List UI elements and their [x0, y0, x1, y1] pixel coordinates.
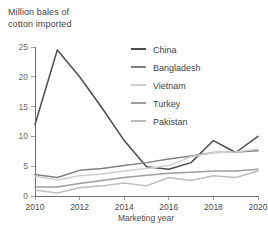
series-line-bangladesh [35, 151, 258, 178]
y-tick-label: 10 [19, 131, 29, 141]
legend-label-china[interactable]: China [153, 45, 177, 55]
x-tick-label: 2016 [159, 202, 178, 212]
x-tick-label: 2010 [26, 202, 45, 212]
x-tick-label: 2020 [249, 202, 268, 212]
series-group [35, 50, 258, 193]
series-line-china [35, 50, 258, 169]
x-tick-label: 2012 [70, 202, 89, 212]
cotton-imports-line-chart: Million bales ofcotton imported 05101520… [0, 0, 268, 233]
y-tick-label: 5 [23, 161, 28, 171]
y-tick-label: 20 [19, 72, 29, 82]
legend-label-bangladesh[interactable]: Bangladesh [153, 63, 201, 73]
y-axis-tick-group: 0510152025 [19, 42, 35, 201]
x-tick-label: 2018 [204, 202, 223, 212]
plot-area: 0510152025 201020122014201620182020 Chin… [0, 0, 268, 233]
legend-label-vietnam[interactable]: Vietnam [153, 81, 186, 91]
y-tick-label: 25 [19, 42, 29, 52]
y-tick-label: 15 [19, 102, 29, 112]
x-tick-label: 2014 [115, 202, 134, 212]
y-tick-label: 0 [23, 191, 28, 201]
legend-label-turkey[interactable]: Turkey [153, 99, 181, 109]
x-axis-tick-group: 201020122014201620182020 [26, 196, 268, 212]
x-axis-title: Marketing year [118, 213, 174, 223]
legend-label-pakistan[interactable]: Pakistan [153, 117, 188, 127]
chart-legend: ChinaBangladeshVietnamTurkeyPakistan [131, 45, 201, 127]
